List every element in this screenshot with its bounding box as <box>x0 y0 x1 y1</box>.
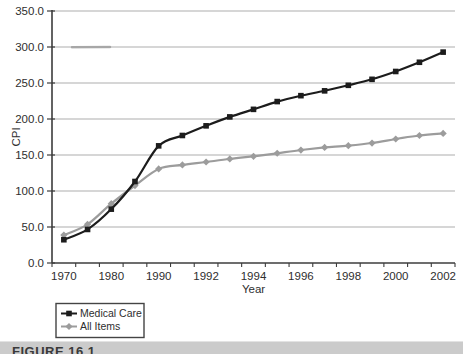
marker-diamond <box>274 150 281 157</box>
y-tick-label: 150.0 <box>15 149 44 161</box>
figure-page: 0.050.0100.0150.0200.0250.0300.0350.0197… <box>0 0 463 354</box>
marker-diamond <box>226 155 233 162</box>
marker-diamond <box>179 161 186 168</box>
x-tick-label: 1970 <box>51 270 77 282</box>
y-tick-label: 200.0 <box>15 113 44 125</box>
marker-diamond <box>392 135 399 142</box>
x-tick-label: 1992 <box>193 270 219 282</box>
marker-square <box>108 206 114 212</box>
marker-square <box>440 49 446 55</box>
series-line <box>64 134 443 236</box>
y-tick-label: 100.0 <box>15 185 44 197</box>
marker-square <box>180 133 186 139</box>
y-tick-label: 300.0 <box>15 41 44 53</box>
marker-diamond <box>345 142 352 149</box>
x-axis-ticks: 197019801990199219941996199820002002 <box>51 263 456 282</box>
marker-diamond <box>297 146 304 153</box>
series-medical-care <box>61 49 446 242</box>
x-tick-label: 2000 <box>383 270 409 282</box>
marker-square <box>132 179 138 185</box>
marker-square <box>66 311 72 317</box>
marker-square <box>251 107 257 113</box>
marker-square <box>274 99 280 105</box>
marker-square <box>322 88 328 94</box>
legend: Medical CareAll Items <box>56 304 144 338</box>
marker-square <box>298 93 304 99</box>
plot-gridlines <box>52 11 455 227</box>
marker-diamond <box>416 132 423 139</box>
figure-caption-label: FIGURE 16.1 <box>0 342 96 354</box>
marker-square <box>393 69 399 75</box>
y-tick-label: 350.0 <box>15 5 44 17</box>
y-tick-label: 50.0 <box>22 221 44 233</box>
marker-square <box>156 143 162 149</box>
marker-square <box>61 237 67 243</box>
legend-label: Medical Care <box>80 307 142 319</box>
marker-square <box>227 114 233 120</box>
marker-square <box>85 227 91 233</box>
series-all-items <box>60 130 446 239</box>
x-tick-label: 1994 <box>241 270 267 282</box>
marker-square <box>203 123 209 129</box>
marker-diamond <box>250 153 257 160</box>
x-axis-title: Year <box>242 283 265 295</box>
x-tick-label: 1980 <box>98 270 124 282</box>
marker-diamond <box>368 139 375 146</box>
marker-diamond <box>440 130 447 137</box>
marker-diamond <box>321 144 328 151</box>
y-tick-label: 250.0 <box>15 77 44 89</box>
x-tick-label: 2002 <box>430 270 456 282</box>
marker-square <box>417 59 423 65</box>
series-line <box>64 52 443 240</box>
y-tick-label: 0.0 <box>28 257 44 269</box>
y-axis-title: CPI <box>10 127 22 146</box>
cpi-line-chart: 0.050.0100.0150.0200.0250.0300.0350.0197… <box>0 0 463 341</box>
x-tick-label: 1996 <box>288 270 314 282</box>
marker-diamond <box>202 158 209 165</box>
x-tick-label: 1998 <box>336 270 362 282</box>
figure-caption-bar: FIGURE 16.1 <box>0 341 463 354</box>
legend-label: All Items <box>80 320 120 332</box>
marker-square <box>346 83 352 89</box>
x-tick-label: 1990 <box>146 270 172 282</box>
marker-square <box>369 77 375 83</box>
